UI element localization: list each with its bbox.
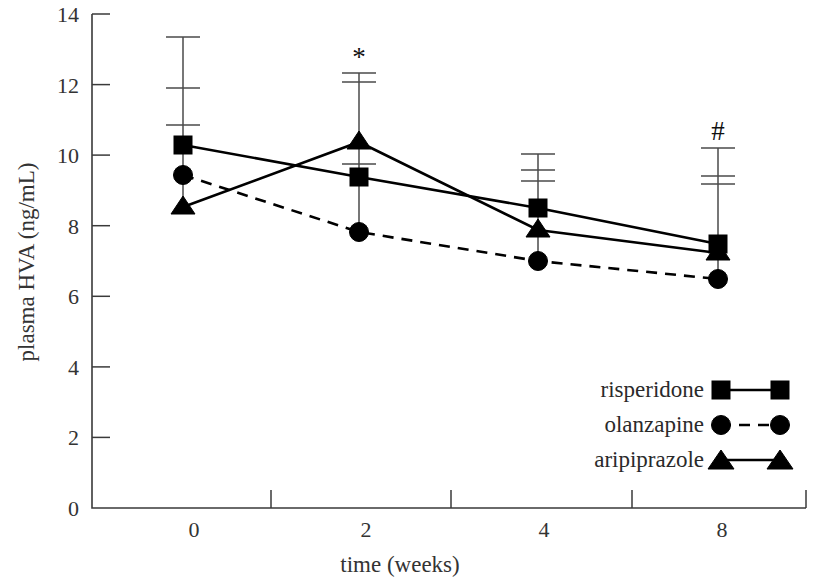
- y-tick-label-4: 4: [68, 355, 79, 380]
- marker-square-w4: [529, 199, 547, 217]
- y-tick-label-6: 6: [68, 284, 79, 309]
- chart-figure: 14 12 10 8 6 4 2 0 0 2 4 8 time (weeks) …: [0, 0, 813, 580]
- marker-square-w0: [174, 136, 192, 154]
- marker-circle-w4: [529, 252, 548, 271]
- y-tick-label-14: 14: [57, 2, 79, 27]
- x-axis-ticks: [271, 490, 806, 508]
- marker-circle-w2: [350, 223, 369, 242]
- markers-risperidone: [174, 136, 727, 253]
- marker-triangle-w2: [347, 131, 371, 149]
- x-axis-title: time (weeks): [340, 552, 459, 577]
- series-line-risperidone: [183, 145, 718, 244]
- x-tick-label-2: 2: [361, 517, 372, 542]
- legend-marker-square-left: [712, 381, 730, 399]
- legend-marker-circle-right: [771, 416, 790, 435]
- legend-label-olanzapine: olanzapine: [604, 412, 704, 437]
- marker-triangle-w4: [526, 219, 550, 237]
- y-axis-ticks: [92, 85, 110, 438]
- x-tick-label-8: 8: [717, 517, 728, 542]
- legend: risperidone olanzapine aripiprazole: [594, 377, 793, 472]
- y-tick-label-8: 8: [68, 214, 79, 239]
- y-tick-label-2: 2: [68, 425, 79, 450]
- y-tick-label-0: 0: [68, 496, 79, 521]
- y-tick-label-10: 10: [57, 143, 79, 168]
- plot-canvas: 14 12 10 8 6 4 2 0 0 2 4 8 time (weeks) …: [0, 0, 813, 580]
- y-tick-labels: 14 12 10 8 6 4 2 0: [57, 2, 79, 521]
- legend-label-aripiprazole: aripiprazole: [594, 447, 704, 472]
- legend-marker-circle-left: [712, 416, 731, 435]
- legend-label-risperidone: risperidone: [601, 377, 704, 402]
- marker-circle-w0: [174, 166, 193, 185]
- marker-circle-w8: [709, 270, 728, 289]
- markers-olanzapine: [174, 166, 728, 289]
- x-tick-label-0: 0: [189, 517, 200, 542]
- x-tick-label-4: 4: [539, 517, 550, 542]
- x-tick-labels: 0 2 4 8: [189, 517, 728, 542]
- marker-square-w2: [350, 168, 368, 186]
- y-axis-title: plasma HVA (ng/mL): [14, 163, 39, 362]
- significance-annotation-asterisk: *: [352, 42, 366, 72]
- y-tick-label-12: 12: [57, 73, 79, 98]
- significance-annotation-hash: #: [711, 116, 725, 146]
- legend-marker-square-right: [771, 381, 789, 399]
- markers-aripiprazole: [171, 131, 730, 260]
